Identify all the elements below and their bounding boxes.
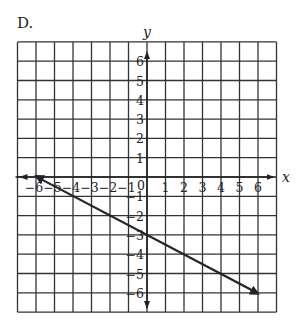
y-tick-label: −3 bbox=[126, 228, 144, 243]
y-tick-label: −1 bbox=[126, 189, 144, 204]
y-tick-label: 5 bbox=[136, 74, 144, 89]
x-tick-label: 6 bbox=[254, 180, 262, 195]
y-axis-label: y bbox=[142, 24, 152, 40]
x-tick-label: 5 bbox=[236, 180, 244, 195]
y-tick-label: 3 bbox=[136, 112, 144, 127]
y-tick-label: 1 bbox=[136, 151, 144, 166]
x-tick-label: −3 bbox=[80, 180, 98, 195]
y-tick-label: −4 bbox=[126, 247, 144, 262]
coordinate-plane: xy−6−5−4−3−2−11234560−6−5−4−3−2−1123456 bbox=[0, 0, 305, 330]
y-tick-label: −2 bbox=[126, 209, 144, 224]
x-tick-label: −2 bbox=[99, 180, 117, 195]
y-tick-label: 6 bbox=[136, 54, 144, 69]
y-tick-label: −5 bbox=[126, 267, 144, 282]
x-axis-label: x bbox=[282, 169, 290, 185]
x-tick-label: 4 bbox=[217, 180, 225, 195]
x-tick-label: 1 bbox=[162, 180, 170, 195]
x-tick-label: 2 bbox=[180, 180, 188, 195]
y-tick-label: −6 bbox=[126, 286, 144, 301]
x-tick-label: 3 bbox=[199, 180, 207, 195]
y-tick-label: 2 bbox=[136, 131, 144, 146]
x-tick-label: −6 bbox=[25, 180, 43, 195]
tick-labels: xy−6−5−4−3−2−11234560−6−5−4−3−2−1123456 bbox=[25, 24, 290, 301]
y-tick-label: 4 bbox=[136, 93, 144, 108]
